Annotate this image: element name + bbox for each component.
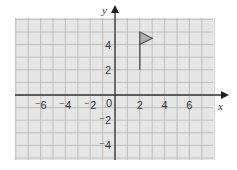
y-tick-label: ⁻2 [99, 114, 111, 126]
x-tick-label: 6 [186, 99, 192, 111]
x-axis-arrow-icon [221, 91, 229, 99]
y-axis-arrow-icon [111, 5, 119, 13]
grid-background [15, 18, 213, 160]
coordinate-grid: y x 0 ⁻6⁻4⁻224642⁻2⁻4 [0, 0, 237, 170]
origin-label: 0 [106, 97, 112, 109]
x-tick-label: ⁻6 [35, 99, 47, 111]
x-axis-label: x [217, 100, 223, 112]
y-tick-label: ⁻4 [99, 139, 111, 151]
y-tick-label: 4 [105, 39, 111, 51]
x-tick-label: 2 [137, 99, 143, 111]
x-tick-label: ⁻2 [84, 99, 96, 111]
y-tick-label: 2 [105, 64, 111, 76]
y-axis-label: y [101, 4, 107, 16]
x-tick-label: ⁻4 [59, 99, 71, 111]
x-tick-label: 4 [162, 99, 168, 111]
